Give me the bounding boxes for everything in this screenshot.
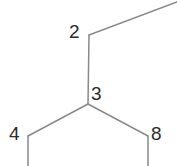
bond-3-4 [28,104,88,136]
atom-label-4: 4 [9,124,20,143]
atom-label-3: 3 [91,84,102,103]
bond-2-3 [88,35,89,104]
bond-2-upright [89,2,177,35]
atom-label-8: 8 [151,124,162,143]
bond-3-8 [88,104,148,136]
molecular-structure-canvas: 2 3 4 8 [0,0,177,166]
atom-label-2: 2 [69,22,80,41]
